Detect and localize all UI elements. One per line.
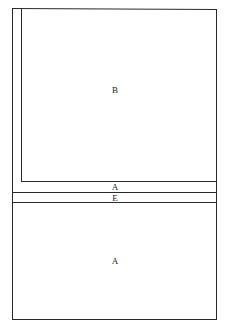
- outer-right-border: [216, 10, 217, 320]
- region-label-band1: A: [112, 183, 119, 192]
- outer-bottom-border: [12, 319, 217, 320]
- inner-bottom-border: [21, 181, 217, 182]
- region-label-lower: A: [112, 257, 119, 266]
- outer-top-border: [12, 8, 217, 10]
- inner-left-border: [21, 8, 22, 182]
- region-label-upper: B: [112, 86, 118, 95]
- outer-left-border: [12, 8, 13, 320]
- region-label-band2: E: [112, 194, 118, 203]
